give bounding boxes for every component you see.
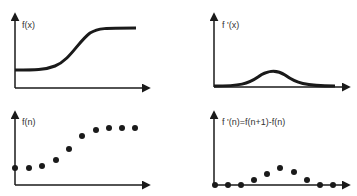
label-f-x: f(x) [22, 20, 35, 30]
bell-curve [214, 71, 335, 86]
label-f-n: f(n) [22, 117, 36, 127]
data-dots [12, 125, 138, 171]
diagram-canvas [0, 0, 357, 196]
panel-continuous-function [15, 14, 149, 88]
sigmoid-curve [15, 28, 136, 70]
label-f-prime-n: f '(n)=f(n+1)-f(n) [222, 117, 285, 127]
label-f-prime-x: f '(x) [222, 20, 239, 30]
